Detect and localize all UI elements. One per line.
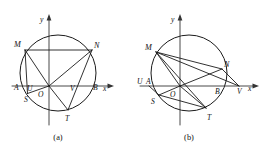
point-label-S-a: S <box>24 95 28 104</box>
segment-T-N-a <box>68 50 92 110</box>
x-axis-arrowhead-b <box>253 84 260 89</box>
point-label-M-a: M <box>13 40 22 49</box>
y-axis-label-b: y <box>170 15 175 24</box>
point-label-U-a: U <box>27 84 33 93</box>
x-axis-label-b: x <box>247 84 252 93</box>
diagram-panel-b: M N A B U V S T O y x (b) <box>137 0 274 148</box>
point-label-A-a: A <box>13 83 19 92</box>
point-label-V-b: V <box>237 87 243 96</box>
point-label-T-b: T <box>207 113 212 122</box>
x-axis-arrowhead-a <box>108 84 115 89</box>
circle-a <box>20 35 96 111</box>
point-label-B-a: B <box>93 83 98 92</box>
segment-N-V-b <box>222 69 239 86</box>
origin-label-a: O <box>38 90 44 99</box>
segment-O-N-b <box>180 69 222 86</box>
point-label-A-b: A <box>145 77 151 86</box>
y-axis-arrowhead-b <box>178 14 183 21</box>
x-axis-label-a: x <box>102 84 107 93</box>
circle-b <box>151 35 227 111</box>
point-label-M-b: M <box>144 43 153 52</box>
segment-O-T-a <box>49 86 68 110</box>
point-label-N-a: N <box>93 41 100 50</box>
point-label-N-b: N <box>223 60 230 69</box>
segment-T-M-b <box>156 52 206 108</box>
caption-b: (b) <box>184 133 194 142</box>
origin-label-b: O <box>170 90 176 99</box>
geometry-figure: M N A B U V S T O y x (a) M <box>0 0 274 148</box>
y-axis-label-a: y <box>39 15 44 24</box>
point-label-S-b: S <box>151 97 155 106</box>
y-axis-arrowhead-a <box>47 14 52 21</box>
segment-O-N-a <box>49 50 92 86</box>
point-label-T-a: T <box>65 114 70 123</box>
diagram-panel-a: M N A B U V S T O y x (a) <box>0 0 137 148</box>
point-label-B-b: B <box>215 87 220 96</box>
caption-a: (a) <box>53 133 63 142</box>
segment-M-O-a <box>25 50 49 86</box>
point-label-U-b: U <box>137 77 143 86</box>
